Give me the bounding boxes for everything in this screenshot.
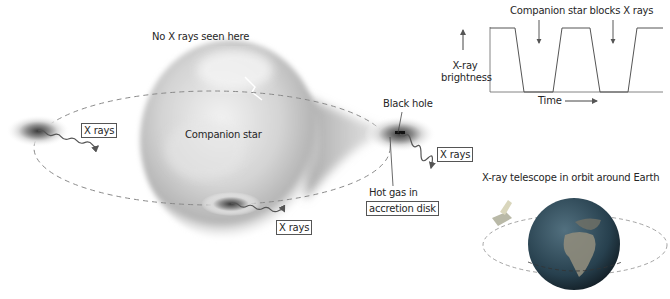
xray-brightness-chart	[463, 20, 663, 101]
hot-gas-label: Hot gas in	[369, 187, 418, 198]
chart-ylabel: X-ray brightness	[441, 60, 489, 84]
earth-group	[483, 198, 667, 290]
xray-telescope-satellite	[492, 200, 512, 226]
accretion-disk-label: accretion disk	[366, 201, 439, 216]
xrays-label-right: X rays	[437, 147, 473, 162]
no-xrays-label: No X rays seen here	[152, 31, 249, 42]
telescope-label: X-ray telescope in orbit around Earth	[482, 172, 659, 183]
black-hole-label: Black hole	[383, 98, 433, 109]
chart-xlabel: Time	[538, 95, 562, 106]
xrays-label-left: X rays	[81, 123, 117, 138]
illustration	[0, 0, 670, 299]
black-hole-dot	[395, 131, 405, 134]
chart-title: Companion star blocks X rays	[510, 5, 653, 16]
brightness-curve	[490, 28, 663, 92]
companion-star-label: Companion star	[185, 129, 262, 140]
xrays-label-bottom: X rays	[276, 220, 312, 235]
chart-ylabel-text: X-ray brightness	[441, 60, 492, 83]
